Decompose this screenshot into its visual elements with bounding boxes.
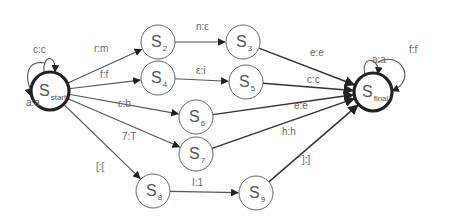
edge-label-start-s6: ε:b [118, 98, 131, 109]
state-node-s9: S9 [239, 176, 273, 210]
edge-start-s4 [69, 80, 140, 89]
edge-label-s7-final: h:h [282, 126, 296, 137]
state-node-s4: S4 [141, 61, 175, 95]
edge-label-s5-final: c:c [307, 74, 320, 85]
edge-s6-final [213, 95, 353, 115]
state-node-s5: S5 [229, 65, 263, 99]
self-loop-label-start: c:c [33, 44, 46, 55]
edge-s7-final [212, 99, 354, 149]
edge-label-s3-final: e:e [310, 47, 324, 58]
state-node-s6: S6 [179, 100, 213, 134]
state-node-s3: S3 [226, 25, 260, 59]
edge-label-start-s4: f:f [100, 69, 109, 80]
self-loop-label-final: a:a [372, 54, 386, 65]
edge-s8-s9 [170, 191, 238, 192]
edge-label-start-s2: r:m [94, 43, 108, 54]
edge-label-s8-s9: I:1 [192, 177, 204, 188]
edge-label-start-s7: 7:T [122, 131, 136, 142]
edge-label-s2-s3: n:ε [196, 21, 209, 32]
self-loops-layer [28, 58, 405, 91]
state-node-s8: S8 [136, 174, 170, 208]
fst-diagram: SstartS2S3S4S5S6S7S8S9Sfinal r:mf:fε:b7:… [0, 0, 451, 222]
edge-s9-final [269, 105, 358, 182]
edge-label-s9-final: ]:] [302, 154, 311, 165]
edge-label-s6-final: e:e [294, 100, 308, 111]
self-loop-label-final: f:f [409, 44, 418, 55]
edge-label-s4-s5: ε:i [196, 65, 205, 76]
state-node-final: Sfinal [354, 73, 392, 111]
edge-label-start-s8: [:[ [96, 161, 105, 172]
self-loop-start-0 [44, 58, 55, 72]
edge-s4-s5 [175, 79, 228, 81]
self-loop-label-start: a:a [26, 97, 40, 108]
state-node-s7: S7 [179, 137, 213, 171]
diagram-svg: SstartS2S3S4S5S6S7S8S9Sfinal r:mf:fε:b7:… [0, 0, 451, 222]
state-circle [354, 73, 392, 111]
state-node-s2: S2 [141, 25, 175, 59]
nodes-layer: SstartS2S3S4S5S6S7S8S9Sfinal [31, 25, 392, 210]
